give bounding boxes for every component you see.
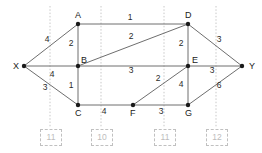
- edge-weight-A-D: 1: [128, 12, 133, 22]
- node-label-F: F: [130, 108, 136, 118]
- node-F[interactable]: [131, 103, 135, 107]
- edge-weight-B-C: 1: [69, 80, 74, 90]
- edge-weight-B-D: 2: [129, 31, 134, 41]
- edge-weight-C-F: 4: [102, 106, 107, 116]
- edge-weight-F-G: 3: [159, 106, 164, 116]
- edge-G-Y: [188, 66, 242, 105]
- edge-weight-B-E: 3: [129, 65, 134, 75]
- edge-weight-E-Y: 3: [210, 65, 215, 75]
- edge-weight-A-B: 2: [69, 38, 74, 48]
- edge-weight-X-C: 3: [43, 82, 48, 92]
- edge-weight-X-B: 4: [50, 69, 55, 79]
- cut-value-box-2: 10: [91, 129, 113, 146]
- cut-value-box-4: 12: [206, 129, 228, 146]
- diagram-canvas: 4432123143223436 XABCDEFGY 11101112: [0, 0, 262, 153]
- node-label-A: A: [75, 10, 81, 20]
- node-D[interactable]: [186, 22, 190, 26]
- node-X[interactable]: [22, 64, 26, 68]
- edge-weight-X-A: 4: [45, 34, 50, 44]
- node-A[interactable]: [76, 22, 80, 26]
- node-label-X: X: [13, 61, 19, 71]
- node-label-D: D: [185, 10, 192, 20]
- node-Y[interactable]: [240, 64, 244, 68]
- node-label-C: C: [75, 108, 82, 118]
- edge-weight-D-E: 2: [179, 38, 184, 48]
- node-G[interactable]: [186, 103, 190, 107]
- edge-weight-E-G: 4: [179, 79, 184, 89]
- node-E[interactable]: [186, 64, 190, 68]
- edge-weight-F-E: 2: [156, 73, 161, 83]
- node-label-E: E: [192, 55, 198, 65]
- node-label-B: B: [81, 55, 87, 65]
- node-label-Y: Y: [249, 61, 255, 71]
- node-labels-group: XABCDEFGY: [13, 10, 255, 118]
- node-C[interactable]: [76, 103, 80, 107]
- edge-weight-D-Y: 3: [217, 34, 222, 44]
- edge-weight-G-Y: 6: [217, 80, 222, 90]
- cut-value-box-1: 11: [40, 129, 62, 146]
- node-B[interactable]: [76, 64, 80, 68]
- node-label-G: G: [185, 108, 192, 118]
- cut-value-box-3: 11: [154, 129, 176, 146]
